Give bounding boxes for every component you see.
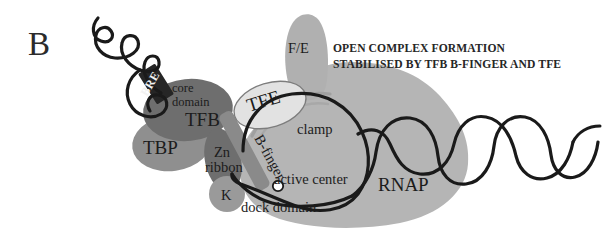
k-subunit-label: K (221, 187, 232, 203)
rnap-label: RNAP (378, 174, 429, 195)
zn-ribbon-label-line1: Zn (214, 144, 231, 160)
zn-ribbon-label-line2: ribbon (205, 159, 244, 175)
active-center-label: active center (274, 171, 348, 187)
dock-domain-label: dock domain (241, 199, 317, 215)
core-domain-label-line2: domain (172, 95, 210, 109)
downstream-dna-tail (573, 126, 600, 142)
fe-lobe-label: F/E (288, 40, 309, 56)
panel-letter: B (28, 26, 50, 62)
tbp-label: TBP (143, 137, 178, 158)
figure-panel-b: B OPEN COMPLEX FORMATION STABILISED BY T… (0, 0, 616, 237)
title-line-1: OPEN COMPLEX FORMATION (333, 42, 506, 55)
title-line-2: STABILISED BY TFB B-FINGER AND TFE (333, 58, 561, 71)
tfb-label: TFB (185, 109, 220, 130)
transcription-complex-diagram: B OPEN COMPLEX FORMATION STABILISED BY T… (0, 0, 616, 237)
core-domain-label-line1: core (172, 81, 194, 95)
clamp-label: clamp (297, 121, 332, 137)
